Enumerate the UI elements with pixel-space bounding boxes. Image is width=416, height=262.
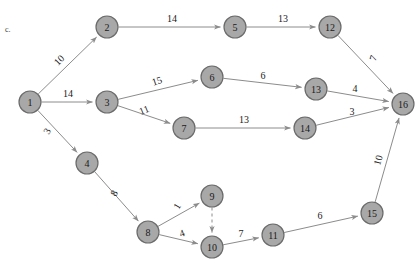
graph-node-7[interactable]: 7 — [173, 117, 195, 139]
edge-weight-label: 10 — [52, 53, 67, 68]
edge-weight-label: 4 — [178, 227, 186, 239]
graph-node-12[interactable]: 12 — [319, 16, 341, 38]
node-circle[interactable] — [361, 202, 383, 224]
edge-weight-label: 4 — [353, 83, 358, 94]
edge-weight-label: 13 — [239, 114, 249, 125]
node-circle[interactable] — [96, 16, 118, 38]
graph-node-10[interactable]: 10 — [201, 236, 223, 258]
edge-weight-label: 1 — [171, 201, 183, 211]
graph-node-16[interactable]: 16 — [392, 93, 414, 115]
graph-diagram-canvas: c. 10143141511813613147674310 1234567891… — [0, 0, 416, 262]
node-circle[interactable] — [305, 78, 327, 100]
graph-node-9[interactable]: 9 — [201, 185, 223, 207]
node-circle[interactable] — [262, 224, 284, 246]
node-circle[interactable] — [392, 93, 414, 115]
edge-weight-label: 6 — [261, 70, 266, 81]
graph-node-1[interactable]: 1 — [19, 91, 41, 113]
edge-weight-label: 14 — [63, 88, 73, 99]
node-circle[interactable] — [201, 236, 223, 258]
node-circle[interactable] — [173, 117, 195, 139]
graph-edge — [223, 238, 258, 245]
graph-node-4[interactable]: 4 — [76, 152, 98, 174]
edges-layer — [38, 27, 399, 245]
graph-edge — [338, 35, 393, 93]
graph-node-11[interactable]: 11 — [262, 224, 284, 246]
edge-weight-label: 7 — [367, 54, 379, 62]
graph-node-15[interactable]: 15 — [361, 202, 383, 224]
graph-node-3[interactable]: 3 — [96, 91, 118, 113]
node-circle[interactable] — [137, 221, 159, 243]
edge-weight-label: 14 — [167, 13, 177, 24]
graph-node-5[interactable]: 5 — [224, 16, 246, 38]
node-circle[interactable] — [201, 66, 223, 88]
edge-weight-label: 3 — [41, 126, 53, 136]
graph-svg: 10143141511813613147674310 1234567891011… — [0, 0, 416, 262]
edge-weight-label: 13 — [278, 13, 288, 24]
node-circle[interactable] — [224, 16, 246, 38]
node-circle[interactable] — [294, 117, 316, 139]
edge-weight-label: 10 — [371, 154, 384, 167]
graph-edge — [38, 37, 96, 94]
graph-node-6[interactable]: 6 — [201, 66, 223, 88]
edge-weight-label: 7 — [239, 228, 244, 239]
node-circle[interactable] — [19, 91, 41, 113]
node-circle[interactable] — [319, 16, 341, 38]
graph-edge — [159, 235, 198, 244]
node-circle[interactable] — [76, 152, 98, 174]
graph-node-8[interactable]: 8 — [137, 221, 159, 243]
node-circle[interactable] — [201, 185, 223, 207]
graph-node-2[interactable]: 2 — [96, 16, 118, 38]
edge-weight-label: 15 — [151, 74, 164, 88]
graph-node-13[interactable]: 13 — [305, 78, 327, 100]
edge-weight-label: 8 — [108, 188, 120, 198]
node-circle[interactable] — [96, 91, 118, 113]
edge-weight-label: 11 — [137, 103, 150, 117]
edge-weight-label: 3 — [350, 106, 355, 117]
graph-edge — [327, 91, 388, 102]
edge-weight-label: 6 — [318, 210, 323, 221]
nodes-layer: 12345678910111213141516 — [19, 16, 414, 258]
graph-node-14[interactable]: 14 — [294, 117, 316, 139]
